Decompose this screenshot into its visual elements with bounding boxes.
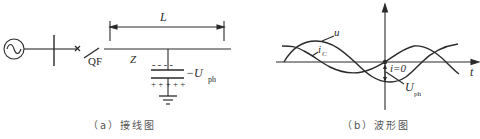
caption-a: （a）接线图 [88, 119, 156, 131]
voltage-curve-label: u [334, 26, 340, 38]
wiring-diagram: QF Z L - - - - + + + + + −U ph （a）接线图 [4, 10, 231, 131]
waveform-diagram: u i C i=0 t U ph （b）波形图 [276, 4, 479, 131]
current-curve [282, 46, 459, 74]
length-dimension [110, 21, 224, 41]
current-curve-label: i [318, 43, 321, 55]
u-leader [322, 36, 334, 41]
length-label: L [159, 10, 167, 24]
amplitude-arrow [383, 64, 387, 82]
uph-subscript: ph [414, 90, 422, 98]
time-axis-label: t [470, 65, 474, 79]
positive-charges: + + + + + [151, 79, 185, 89]
current-curve-subscript: C [322, 50, 327, 58]
figure: QF Z L - - - - + + + + + −U ph （a）接线图 [0, 0, 480, 139]
breaker-label: QF [88, 55, 102, 67]
voltage-subscript: ph [208, 75, 216, 84]
ac-generator-icon [4, 39, 24, 59]
negative-charges: - - - - [152, 59, 173, 70]
vertical-axis [383, 4, 388, 110]
ground-icon [159, 96, 177, 104]
zero-current-label: i=0 [390, 62, 406, 74]
impedance-label: Z [130, 53, 137, 65]
caption-b: （b）波形图 [342, 119, 410, 131]
zero-point-dot [383, 60, 387, 64]
voltage-label: −U [186, 66, 204, 80]
